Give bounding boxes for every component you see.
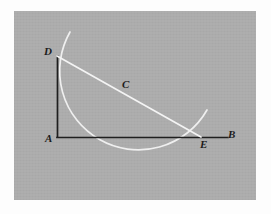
construction-drawing	[0, 0, 271, 214]
point-label-E: E	[200, 139, 207, 150]
construction-arc	[60, 32, 207, 150]
segment-DE	[57, 56, 201, 137]
point-label-D: D	[44, 46, 52, 57]
point-label-A: A	[45, 133, 52, 144]
figure-canvas: D A B E C	[0, 0, 271, 214]
point-label-B: B	[228, 129, 235, 140]
segment-label-C: C	[122, 79, 129, 90]
